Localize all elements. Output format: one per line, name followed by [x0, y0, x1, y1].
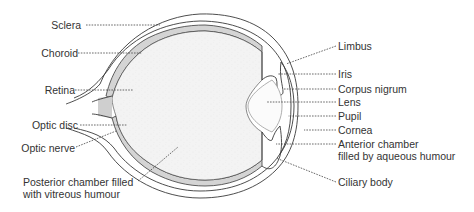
- label-ciliary-body: Ciliary body: [338, 176, 393, 188]
- label-pupil: Pupil: [338, 110, 361, 122]
- label-corpus-nigrum: Corpus nigrum: [338, 83, 407, 95]
- label-choroid: Choroid: [10, 47, 78, 59]
- label-sclera: Sclera: [20, 19, 81, 31]
- label-posterior-chamber: Posterior chamber filled with vitreous h…: [23, 176, 133, 200]
- label-iris: Iris: [338, 68, 352, 80]
- label-lens: Lens: [338, 96, 361, 108]
- iris-lower: [262, 126, 282, 169]
- label-optic-nerve: Optic nerve: [2, 142, 75, 154]
- label-cornea: Cornea: [338, 124, 372, 136]
- label-retina: Retina: [10, 84, 75, 96]
- label-anterior-chamber: Anterior chamber filled by aqueous humou…: [338, 138, 455, 162]
- optic-nerve-shape: [92, 96, 112, 118]
- label-limbus: Limbus: [338, 40, 372, 52]
- label-optic-disc: Optic disc: [2, 119, 78, 131]
